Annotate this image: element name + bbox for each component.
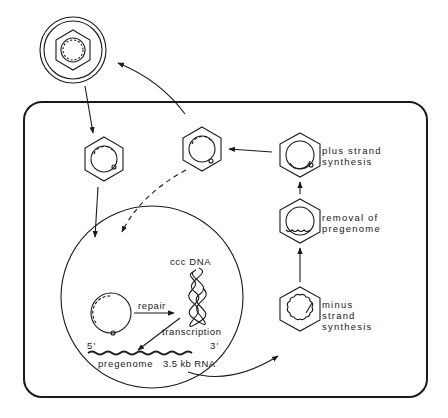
label-plus-strand-synthesis: plus strand synthesis bbox=[322, 145, 382, 167]
label-repair: repair bbox=[138, 300, 166, 311]
replication-cycle-diagram bbox=[0, 0, 448, 418]
label-3-prime: 3' bbox=[210, 340, 220, 351]
label-ccc-dna: ccc DNA bbox=[170, 256, 211, 267]
pregenome-rna-icon bbox=[88, 352, 192, 355]
label-pregenome: pregenome bbox=[98, 358, 153, 369]
arrow-recycling-dashed bbox=[122, 170, 186, 232]
removal-core-icon bbox=[280, 199, 320, 243]
label-removal-of-pregenome: removal of pregenome bbox=[322, 212, 381, 234]
plus-strand-core-icon bbox=[280, 133, 320, 177]
arrow-virion-exit bbox=[118, 63, 185, 114]
label-5-prime: 5' bbox=[87, 340, 97, 351]
ccc-dna-icon bbox=[189, 268, 206, 326]
label-rna-size: 3.5 kb RNA bbox=[163, 358, 216, 369]
minus-strand-core-icon bbox=[280, 287, 320, 331]
arrow-core-to-nucleus bbox=[95, 187, 98, 237]
mature-core-icon bbox=[183, 127, 221, 171]
entering-core-icon bbox=[85, 137, 123, 181]
arrow-virion-entry bbox=[85, 86, 93, 133]
extracellular-virion-icon bbox=[40, 17, 106, 83]
label-minus-strand-synthesis: minus strand synthesis bbox=[322, 299, 372, 332]
arrow-plus-to-mature bbox=[229, 149, 272, 152]
relaxed-circular-dna-icon bbox=[91, 293, 131, 335]
label-transcription: transcription bbox=[162, 326, 222, 337]
